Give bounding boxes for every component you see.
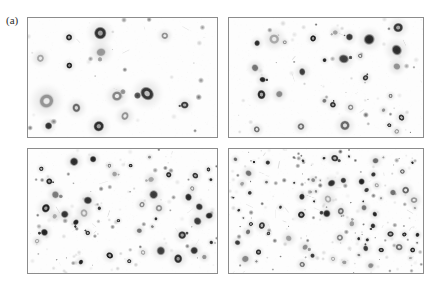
micrograph-panel-top-right [228,17,424,138]
clipped-header-sliver [0,0,439,9]
micrograph-panel-bottom-right [228,148,424,274]
micrograph-canvas-top-right [229,18,423,137]
micrograph-canvas-bottom-right [229,149,423,273]
micrograph-canvas-top-left [28,18,217,137]
figure-label: (a) [6,15,18,26]
micrograph-panel-grid [27,17,424,274]
micrograph-panel-bottom-left [27,148,218,274]
micrograph-panel-top-left [27,17,218,138]
micrograph-canvas-bottom-left [28,149,217,273]
